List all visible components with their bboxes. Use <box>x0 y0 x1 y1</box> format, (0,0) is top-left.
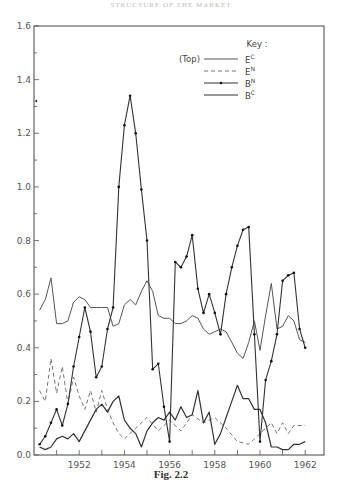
data-marker <box>287 274 290 277</box>
y-tick-label: 0.0 <box>17 450 32 460</box>
data-marker <box>191 234 194 237</box>
y-tick-label: 0.4 <box>17 343 32 353</box>
data-marker <box>44 435 47 438</box>
data-marker <box>157 363 160 366</box>
data-marker <box>55 408 58 411</box>
x-axis: 195219541956195819601962 <box>57 450 317 470</box>
data-marker <box>270 360 273 363</box>
data-marker <box>247 226 250 229</box>
annotations <box>35 100 37 102</box>
legend-label: BN <box>245 77 255 89</box>
data-marker <box>293 271 296 274</box>
legend-label: EC <box>245 53 255 65</box>
data-marker <box>185 255 188 258</box>
legend-marker <box>220 82 223 85</box>
figure-caption: Fig. 2.2 <box>0 468 342 480</box>
series-e-n <box>40 359 306 445</box>
legend-title: Key : <box>247 39 268 49</box>
data-marker <box>101 365 104 368</box>
data-marker <box>174 261 177 264</box>
stray-dot <box>35 100 37 102</box>
data-marker <box>163 405 166 408</box>
data-marker <box>84 306 87 309</box>
data-marker <box>236 245 239 248</box>
data-marker <box>276 333 279 336</box>
y-tick-label: 0.8 <box>17 236 32 246</box>
data-marker <box>219 333 222 336</box>
legend: Key :(Top)ECENBNBC <box>179 39 267 101</box>
line-chart: 0.00.20.40.60.81.01.21.41.6 195219541956… <box>0 0 342 498</box>
data-marker <box>264 379 267 382</box>
y-tick-label: 1.4 <box>17 75 32 85</box>
data-marker <box>208 293 211 296</box>
y-tick-label: 1.6 <box>17 21 32 31</box>
data-marker <box>112 306 115 309</box>
data-marker <box>202 312 205 315</box>
data-marker <box>89 330 92 333</box>
data-marker <box>214 312 217 315</box>
data-marker <box>129 94 132 97</box>
data-series <box>38 94 306 449</box>
data-marker <box>67 403 70 406</box>
y-axis: 0.00.20.40.60.81.01.21.41.6 <box>17 21 39 460</box>
data-marker <box>140 188 143 191</box>
data-marker <box>281 279 284 282</box>
data-marker <box>253 333 256 336</box>
data-marker <box>151 368 154 371</box>
data-marker <box>61 424 64 427</box>
data-marker <box>225 293 228 296</box>
y-tick-label: 1.0 <box>17 182 32 192</box>
y-tick-label: 1.2 <box>17 128 31 138</box>
data-marker <box>259 440 262 443</box>
legend-label: EN <box>245 65 255 77</box>
data-marker <box>304 346 307 349</box>
data-marker <box>117 186 120 189</box>
legend-label: BC <box>245 89 255 101</box>
data-marker <box>180 266 183 269</box>
data-marker <box>298 328 301 331</box>
data-marker <box>242 228 245 231</box>
data-marker <box>50 422 53 425</box>
y-tick-label: 0.6 <box>17 289 32 299</box>
data-marker <box>106 328 109 331</box>
data-marker <box>78 336 81 339</box>
legend-top-note: (Top) <box>179 54 200 64</box>
data-marker <box>38 443 41 446</box>
data-marker <box>123 124 126 127</box>
data-marker <box>197 287 200 290</box>
data-marker <box>95 376 98 379</box>
data-marker <box>168 440 171 443</box>
data-marker <box>146 239 149 242</box>
data-marker <box>72 365 75 368</box>
data-marker <box>230 266 233 269</box>
series-b-c <box>40 385 306 449</box>
y-tick-label: 0.2 <box>17 396 31 406</box>
data-marker <box>134 132 137 135</box>
series-b-n <box>40 96 306 445</box>
